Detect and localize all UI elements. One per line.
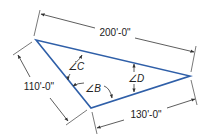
dimension-label-200: 200'-0" bbox=[99, 27, 130, 38]
angle-label-d: ∠D bbox=[128, 73, 144, 84]
angle-label-c: ∠C bbox=[68, 61, 85, 72]
dimension-label-130: 130'-0" bbox=[130, 109, 161, 120]
triangle-diagram: 200'-0" 110'-0" 130'-0" ∠C ∠B ∠D bbox=[0, 0, 204, 139]
dimension-label-110: 110'-0" bbox=[24, 81, 55, 92]
angle-label-b: ∠B bbox=[85, 83, 101, 94]
diagram-svg: 200'-0" 110'-0" 130'-0" ∠C ∠B ∠D bbox=[0, 0, 204, 139]
triangle bbox=[36, 40, 190, 108]
